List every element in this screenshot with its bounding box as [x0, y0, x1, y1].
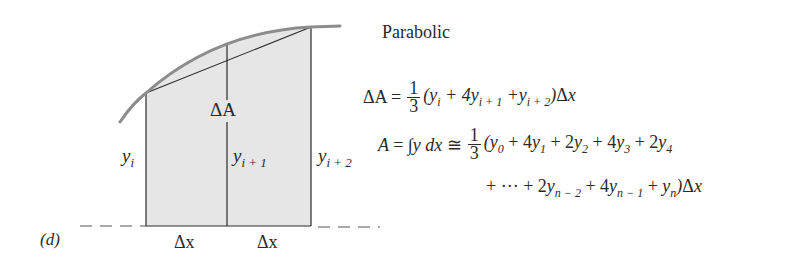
- panel-label: (d): [40, 230, 60, 250]
- strip-rhs: (yi + 4yi + 1 +yi + 2)Δx: [423, 85, 576, 110]
- interval-label-left: Δx: [174, 232, 195, 253]
- total-fraction: 1 3: [468, 127, 481, 162]
- strip-lhs: ΔA =: [363, 87, 401, 108]
- total-equation: A = ∫y dx ≅ 1 3 (y0 + 4y1 + 2y2 + 4y3 + …: [378, 127, 672, 162]
- strip-equation: ΔA = 1 3 (yi + 4yi + 1 +yi + 2)Δx: [363, 80, 576, 115]
- area-label: ΔA: [210, 99, 236, 121]
- total-equation-continuation: + ··· + 2yn − 2 + 4yn − 1 + yn)Δx: [486, 176, 702, 201]
- ordinate-label-yi2: yi + 2: [318, 145, 352, 171]
- strip-fraction: 1 3: [407, 80, 420, 115]
- total-lhs: A = ∫y dx ≅: [378, 134, 462, 156]
- shaded-area: [146, 27, 311, 226]
- interval-label-right: Δx: [257, 232, 278, 253]
- ordinate-label-yi: yi: [122, 145, 134, 171]
- ordinate-label-yi1: yi + 1: [233, 145, 267, 171]
- method-title: Parabolic: [382, 22, 450, 43]
- total-rhs-line1: (y0 + 4y1 + 2y2 + 4y3 + 2y4: [484, 132, 673, 157]
